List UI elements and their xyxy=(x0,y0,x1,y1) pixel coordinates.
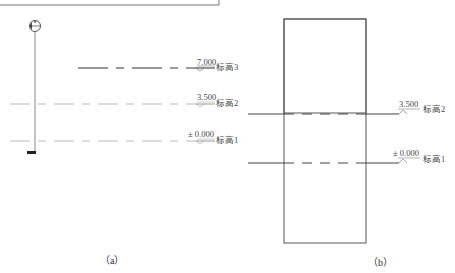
top-frame xyxy=(0,0,219,5)
section-end-bar xyxy=(27,151,36,154)
panel-a-caption: （a） xyxy=(100,255,124,266)
level-1-value: ± 0.000 xyxy=(188,129,214,139)
panel-b-caption: （b） xyxy=(368,257,393,268)
level-2-value: 3.500 xyxy=(197,92,216,102)
level-1-name: 标高1 xyxy=(216,135,238,145)
level-line-1-b[interactable] xyxy=(248,158,420,163)
level-2-b-value: 3.500 xyxy=(399,99,418,109)
level-3-value: 7.000 xyxy=(197,57,216,67)
level-1-b-name: 标高1 xyxy=(423,154,445,164)
level-line-3[interactable] xyxy=(78,66,215,71)
elevation-diagram: 7.000 标高3 3.500 标高2 ± 0.000 标高1 （a） xyxy=(0,0,455,273)
building-outline-lower xyxy=(284,19,366,243)
level-3-name: 标高3 xyxy=(216,62,238,72)
panel-a: 7.000 标高3 3.500 标高2 ± 0.000 标高1 （a） xyxy=(10,21,238,267)
level-line-2[interactable] xyxy=(10,102,215,107)
panel-b: 3.500 标高2 ± 0.000 标高1 （b） xyxy=(248,19,445,268)
level-1-b-value: ± 0.000 xyxy=(393,148,419,158)
building-outline[interactable] xyxy=(284,19,366,113)
level-line-1[interactable] xyxy=(10,139,215,144)
section-marker-icon xyxy=(30,21,41,32)
level-2-b-name: 标高2 xyxy=(423,104,445,114)
level-2-name: 标高2 xyxy=(216,98,238,108)
